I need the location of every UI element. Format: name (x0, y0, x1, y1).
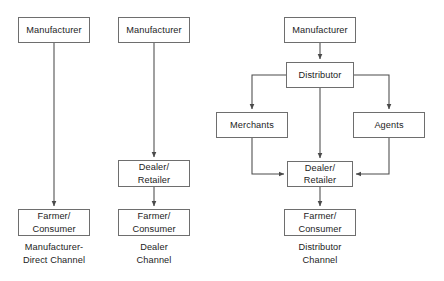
edge-agents-dealer3 (356, 138, 389, 174)
node-label: Manufacturer (126, 24, 181, 37)
node-dealer-channel-dealer-retailer[interactable]: Dealer/ Retailer (118, 160, 190, 187)
node-label: Merchants (230, 119, 274, 132)
edge-distributor-agents (354, 75, 389, 109)
node-label: Farmer/ Consumer (298, 210, 341, 235)
node-manufacturer-direct-manufacturer[interactable]: Manufacturer (18, 17, 90, 43)
node-label: Manufacturer (26, 24, 81, 37)
node-manufacturer-direct-farmer-consumer[interactable]: Farmer/ Consumer (18, 209, 90, 236)
node-label: Farmer/ Consumer (32, 210, 75, 235)
channel-diagram: Manufacturer Farmer/ Consumer Manufactur… (0, 0, 444, 281)
caption-manufacturer-direct-channel: Manufacturer- Direct Channel (4, 241, 104, 267)
node-distributor-channel-manufacturer[interactable]: Manufacturer (284, 17, 356, 43)
node-label: Agents (374, 119, 403, 132)
node-label: Farmer/ Consumer (132, 210, 175, 235)
node-distributor-channel-agents[interactable]: Agents (353, 112, 425, 138)
node-label: Dealer/ Retailer (138, 161, 170, 186)
node-distributor-channel-farmer-consumer[interactable]: Farmer/ Consumer (284, 209, 356, 236)
edge-merchants-dealer3 (252, 138, 284, 174)
node-label: Manufacturer (292, 24, 347, 37)
node-label: Distributor (299, 69, 342, 82)
caption-distributor-channel: Distributor Channel (270, 241, 370, 267)
node-distributor-channel-dealer-retailer[interactable]: Dealer/ Retailer (287, 161, 353, 187)
node-distributor-channel-distributor[interactable]: Distributor (286, 62, 354, 88)
node-distributor-channel-merchants[interactable]: Merchants (216, 112, 288, 138)
node-dealer-channel-manufacturer[interactable]: Manufacturer (118, 17, 190, 43)
edge-distributor-merchants (252, 75, 286, 109)
node-label: Dealer/ Retailer (304, 162, 336, 187)
caption-dealer-channel: Dealer Channel (104, 241, 204, 267)
node-dealer-channel-farmer-consumer[interactable]: Farmer/ Consumer (118, 209, 190, 236)
